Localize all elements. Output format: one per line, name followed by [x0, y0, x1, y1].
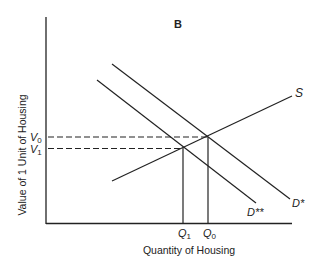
v1-label: V1 [30, 143, 42, 157]
panel-label: B [174, 18, 182, 30]
demand-curve-d-double-star [97, 80, 256, 203]
x-axis-title: Quantity of Housing [143, 244, 235, 256]
diagram-canvas: B S D* D** V0 V1 Q1 Q0 Quantity of Housi… [0, 0, 318, 268]
demand-d-star-label: D* [292, 197, 305, 209]
demand-d-double-star-label: D** [247, 206, 264, 218]
q0-label: Q0 [203, 227, 217, 241]
y-axis-title: Value of 1 Unit of Housing [16, 94, 28, 215]
supply-curve [112, 96, 292, 181]
demand-curve-d-star [112, 64, 290, 199]
q1-label: Q1 [178, 227, 192, 241]
supply-demand-diagram: B S D* D** V0 V1 Q1 Q0 Quantity of Housi… [0, 0, 318, 268]
supply-label: S [295, 86, 303, 100]
